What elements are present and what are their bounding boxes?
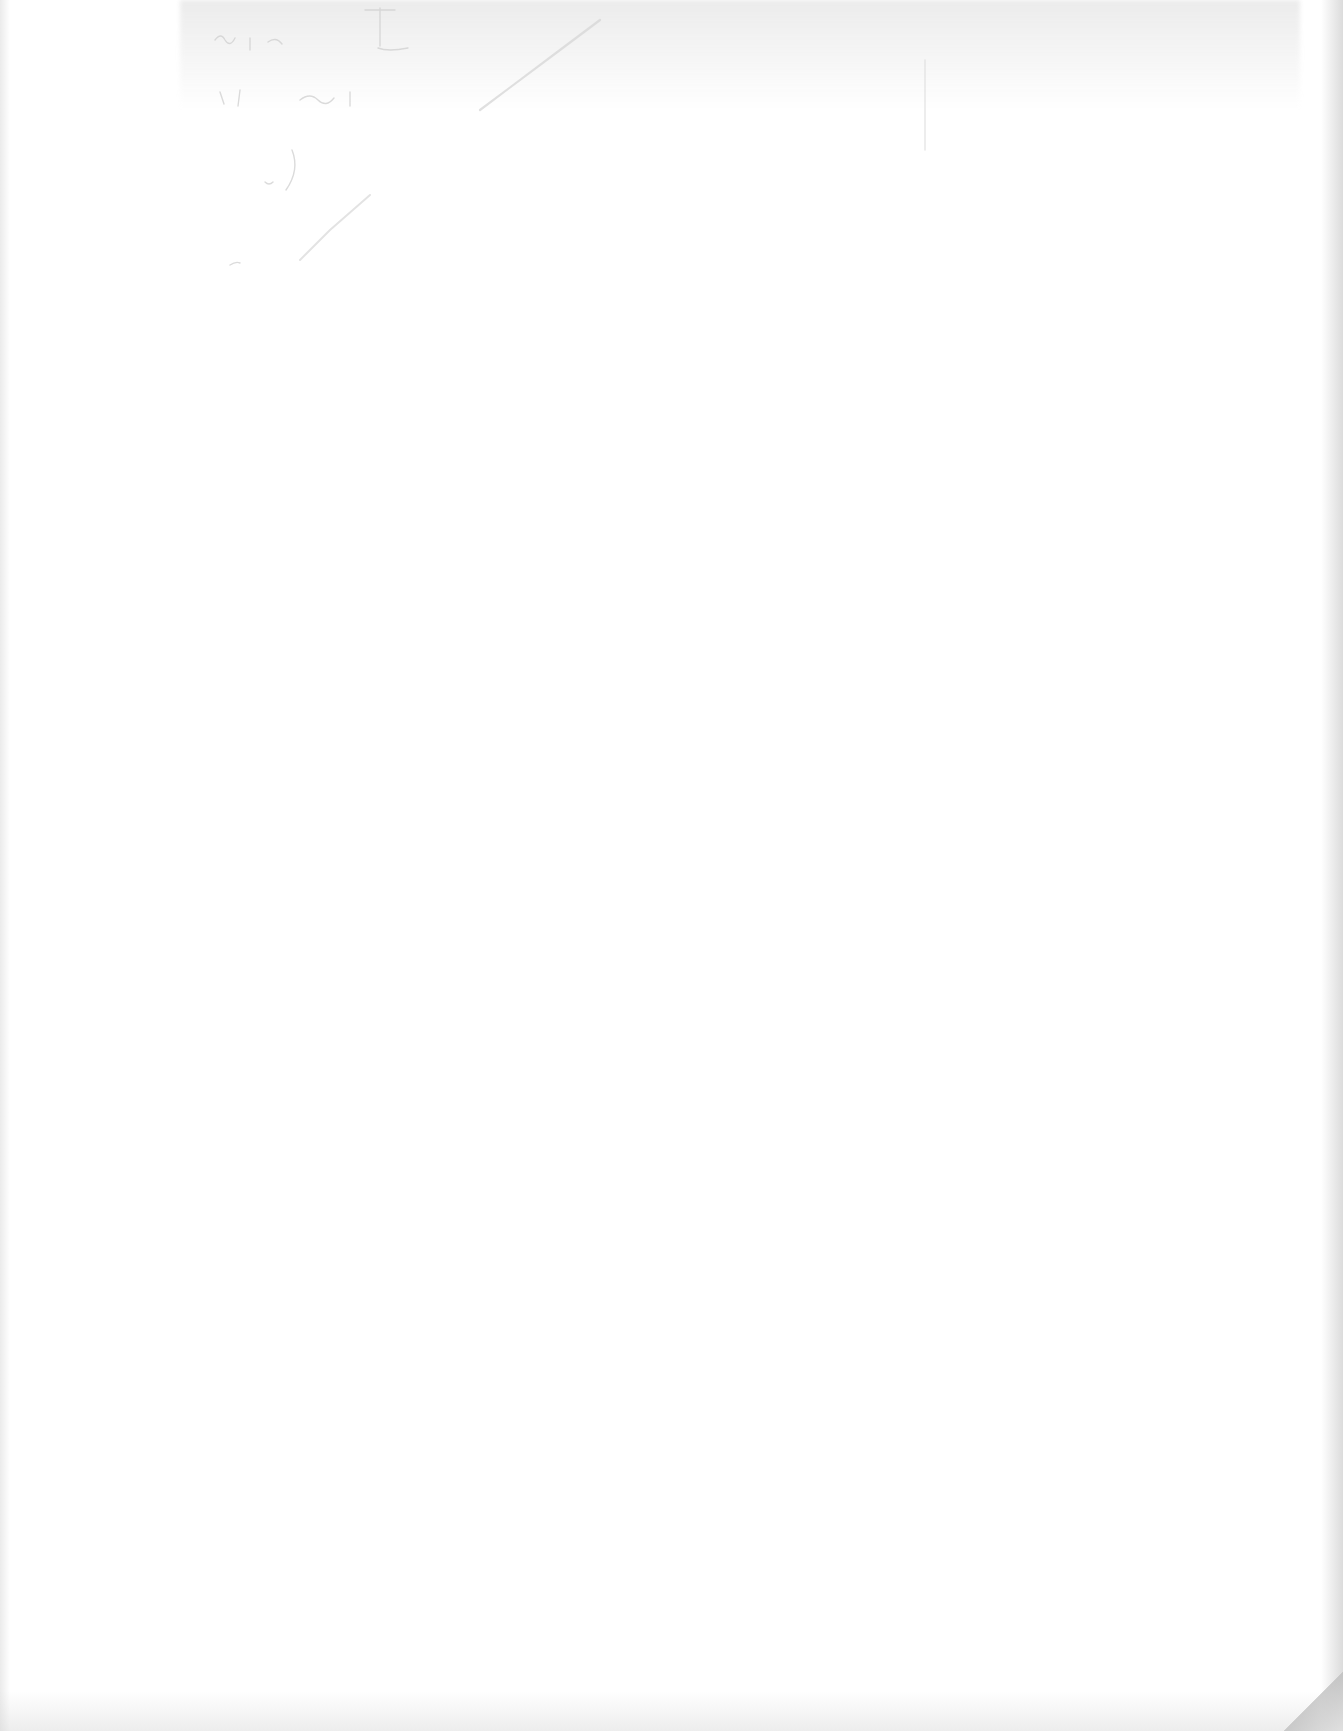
page-corner-curl	[1283, 1671, 1343, 1731]
page-bottom-edge-shadow	[0, 1691, 1343, 1731]
page-right-edge-shadow	[1321, 0, 1343, 1731]
page-left-edge-shadow	[0, 0, 10, 1731]
pencil-bleed-through-marks	[0, 0, 1343, 320]
scanned-page	[0, 0, 1343, 1731]
